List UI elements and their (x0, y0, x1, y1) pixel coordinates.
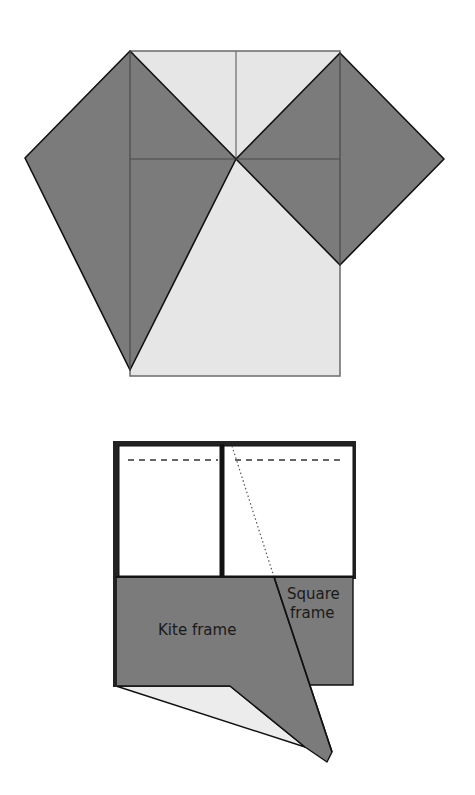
left-panel (119, 446, 220, 576)
top-figure (25, 51, 444, 376)
kite-frame-label: Kite frame (158, 621, 236, 639)
bottom-figure: Kite frame Square frame (113, 441, 356, 762)
square-frame-label-line2: frame (290, 604, 334, 622)
left-thick-edge (113, 577, 117, 687)
square-frame-label-line1: Square (287, 585, 340, 603)
origami-diagram: Kite frame Square frame (0, 0, 475, 795)
center-divider (220, 444, 224, 578)
right-panel (224, 446, 353, 576)
